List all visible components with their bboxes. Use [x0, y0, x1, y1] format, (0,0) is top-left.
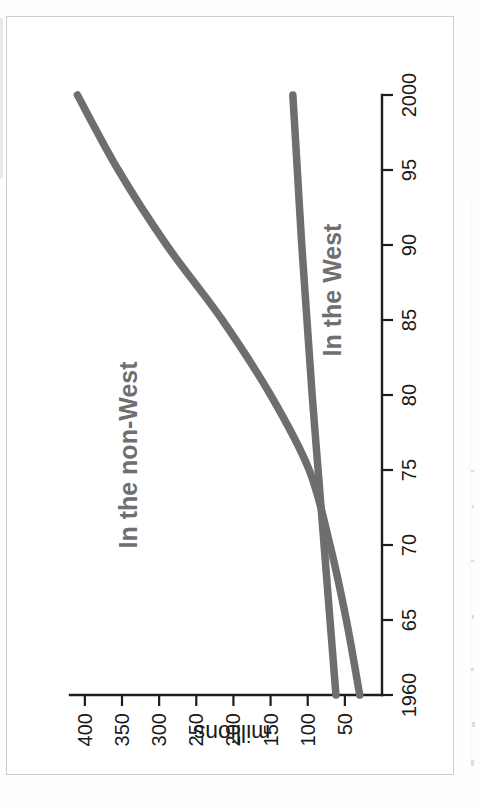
x-tick-label: 90 [398, 234, 420, 256]
scanned-page: 1960657075808590952000 50100150200250300… [0, 0, 484, 811]
x-tick-label: 65 [398, 609, 420, 631]
x-tick-label: 80 [398, 384, 420, 406]
y-tick-label: 350 [111, 713, 133, 746]
scan-speckle [472, 505, 474, 508]
x-tick-label: 85 [398, 309, 420, 331]
scan-speckle [471, 668, 474, 671]
scan-speckle [471, 470, 474, 472]
x-tick-label: 2000 [398, 73, 420, 118]
y-tick-label: 50 [334, 713, 356, 735]
scan-edge-artifact-right [470, 200, 471, 760]
scan-edge-artifact-left [0, 18, 3, 178]
series-annotation-in-the-west: In the West [318, 223, 346, 357]
y-axis-title: millions [194, 720, 271, 746]
y-tick-label: 300 [148, 713, 170, 746]
y-tick-label: 400 [74, 713, 96, 746]
scan-speckle [471, 560, 474, 562]
series-annotation-in-the-non-west: In the non-West [114, 361, 142, 549]
x-tick-label: 95 [398, 159, 420, 181]
rotated-figure-container: 1960657075808590952000 50100150200250300… [32, 55, 452, 755]
y-tick-label: 100 [297, 713, 319, 746]
x-axis-tick-labels: 1960657075808590952000 [398, 73, 420, 718]
line-chart: 1960657075808590952000 50100150200250300… [32, 55, 452, 755]
scan-speckle [472, 615, 474, 619]
x-tick-label: 70 [398, 534, 420, 556]
scan-speckle [471, 760, 474, 766]
x-axis-ticks [382, 95, 393, 695]
series-line-in-the-west [293, 95, 336, 695]
chart-canvas: 1960657075808590952000 50100150200250300… [32, 55, 452, 755]
scan-speckle [472, 722, 475, 727]
x-tick-label: 1960 [398, 673, 420, 718]
x-tick-label: 75 [398, 459, 420, 481]
y-axis-ticks [85, 695, 345, 706]
